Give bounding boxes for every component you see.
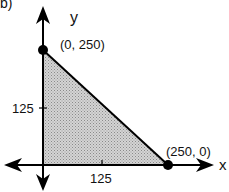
y-axis-label: y bbox=[70, 10, 78, 26]
x-axis-label: x bbox=[219, 157, 227, 172]
y-tick-label: 125 bbox=[12, 102, 34, 115]
x-tick-label: 125 bbox=[90, 172, 112, 185]
point-top-label: (0, 250) bbox=[60, 38, 105, 51]
point-250-0 bbox=[163, 160, 173, 170]
panel-label: b) bbox=[0, 0, 12, 10]
point-right-label: (250, 0) bbox=[166, 145, 211, 158]
feasible-region-plot bbox=[0, 0, 229, 192]
point-0-250 bbox=[38, 45, 48, 55]
